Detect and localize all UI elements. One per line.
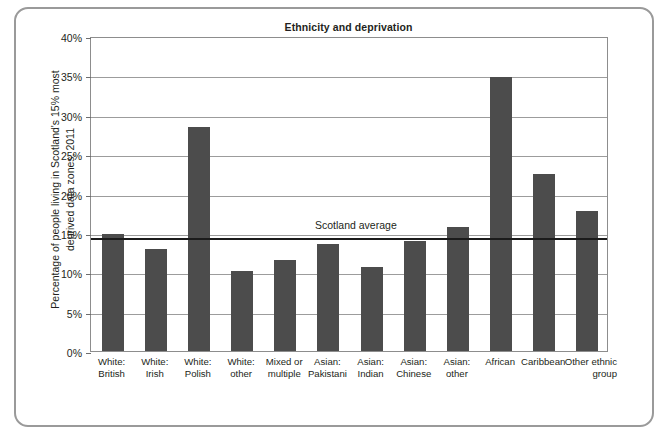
y-axis-tick-label: 30%: [61, 111, 82, 123]
y-axis-tick-label: 0%: [67, 347, 82, 359]
bar: [145, 249, 167, 351]
plot-area: 0%5%10%15%20%25%30%35%40%: [90, 37, 608, 352]
bar: [576, 211, 598, 351]
bar: [317, 244, 339, 351]
y-axis-tick-mark: [86, 77, 91, 78]
bar: [231, 271, 253, 351]
y-axis-tick-mark: [86, 235, 91, 236]
bar: [533, 174, 555, 351]
y-axis-tick-label: 15%: [61, 229, 82, 241]
gridline: [91, 314, 607, 315]
y-axis-tick-label: 10%: [61, 268, 82, 280]
gridline: [91, 156, 607, 157]
chart-title: Ethnicity and deprivation: [88, 21, 609, 33]
gridline: [91, 235, 607, 236]
y-axis-tick-label: 25%: [61, 150, 82, 162]
y-axis-tick-label: 35%: [61, 71, 82, 83]
y-axis-tick-mark: [86, 156, 91, 157]
gridline: [91, 274, 607, 275]
y-axis-tick-mark: [86, 117, 91, 118]
y-axis-tick-label: 40%: [61, 32, 82, 44]
y-axis-tick-label: 5%: [67, 308, 82, 320]
y-axis-tick-mark: [86, 314, 91, 315]
bar: [404, 241, 426, 351]
bar: [361, 267, 383, 351]
gridline: [91, 196, 607, 197]
gridline: [91, 77, 607, 78]
y-axis-tick-mark: [86, 196, 91, 197]
y-axis-tick-mark: [86, 274, 91, 275]
scotland-average-line: [91, 238, 607, 240]
bar: [102, 234, 124, 351]
bar: [490, 77, 512, 351]
y-axis-tick-mark: [86, 38, 91, 39]
y-axis-tick-mark: [86, 353, 91, 354]
bar: [447, 227, 469, 351]
scotland-average-label: Scotland average: [315, 219, 397, 231]
y-axis-tick-label: 20%: [61, 190, 82, 202]
gridline: [91, 117, 607, 118]
bar: [274, 260, 296, 351]
cut-off-footnote-text: [26, 392, 586, 399]
x-axis-tick-label: Other ethnic group: [556, 356, 617, 380]
